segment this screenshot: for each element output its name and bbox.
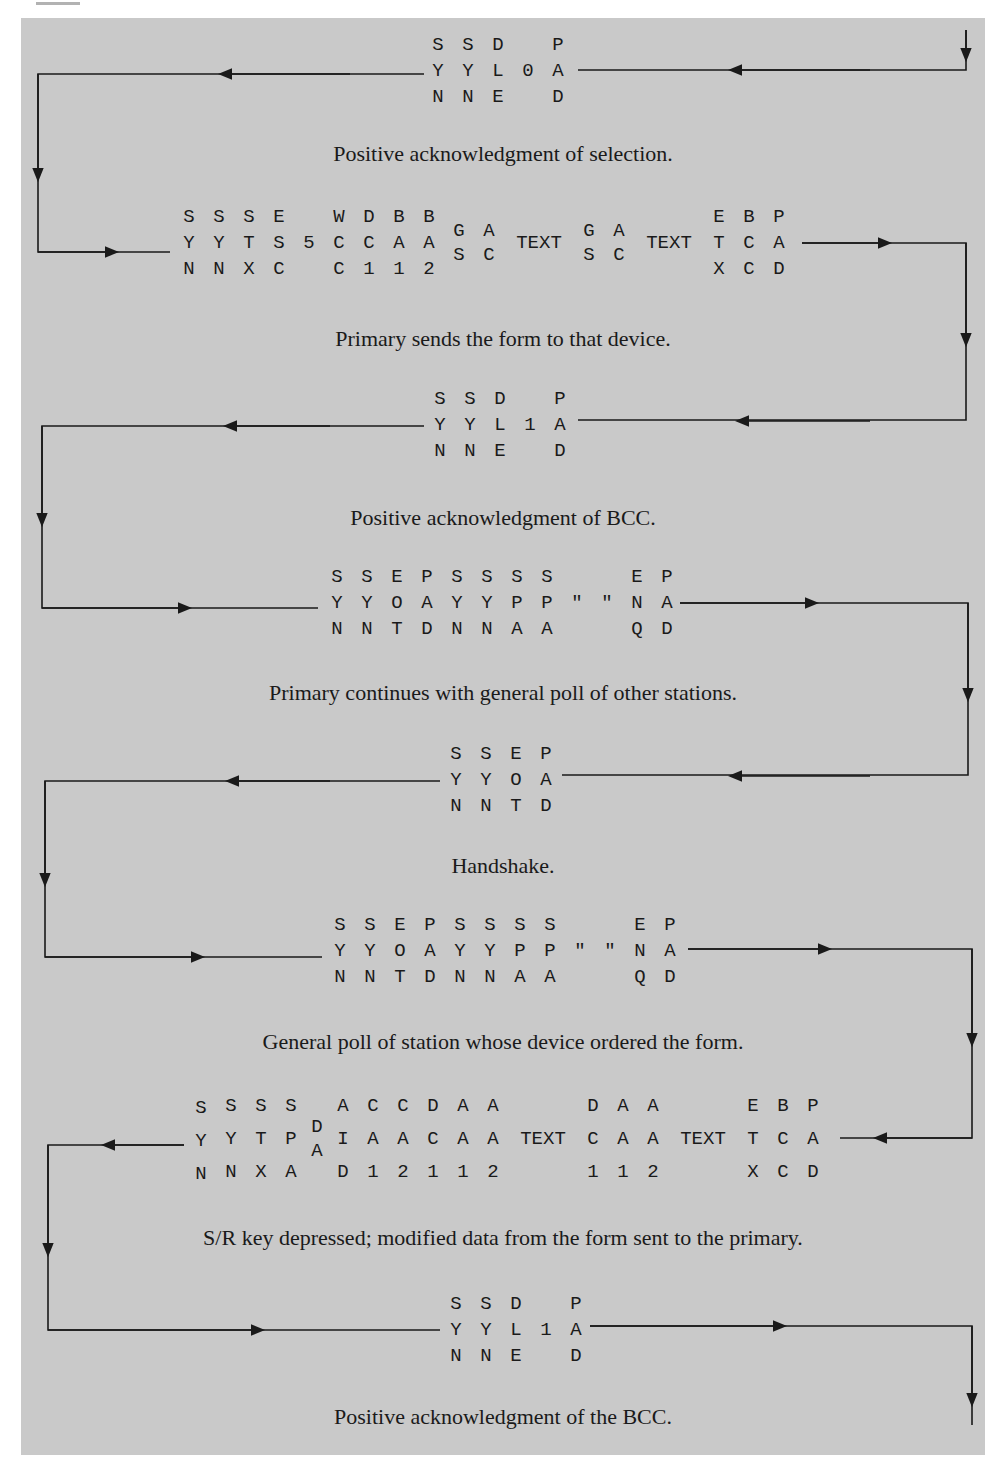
control-char: P — [664, 912, 675, 938]
control-char: S — [273, 230, 284, 256]
control-char: P — [285, 1126, 296, 1152]
char-column: SPA — [535, 912, 565, 990]
control-char: Y — [195, 1126, 206, 1152]
control-char: T — [255, 1126, 266, 1152]
frame-general-poll-others: SYN SYN EOT PAD SYN SYN SPA SPA " " ENQ … — [322, 564, 682, 642]
control-char: Y — [454, 938, 465, 964]
char-column: SYN — [441, 741, 471, 819]
char-column: SPA — [505, 912, 535, 990]
control-char: E — [747, 1093, 758, 1119]
char-column: SYN — [442, 564, 472, 642]
control-char: S — [225, 1093, 236, 1119]
char-column: PAD — [652, 564, 682, 642]
control-char: A — [664, 938, 675, 964]
char-column: AC — [474, 204, 504, 282]
char-column: SYN — [471, 1291, 501, 1369]
control-char: P — [552, 32, 563, 58]
control-char: A — [424, 938, 435, 964]
control-char: C — [367, 1093, 378, 1119]
control-char: S — [434, 386, 445, 412]
control-char: N — [225, 1159, 236, 1185]
control-char: Y — [451, 590, 462, 616]
control-char: S — [462, 32, 473, 58]
control-char: S — [480, 741, 491, 767]
control-char: A — [807, 1126, 818, 1152]
control-char: A — [661, 590, 672, 616]
control-char: S — [454, 912, 465, 938]
control-char: TEXT — [516, 230, 562, 256]
char-column: ESC — [264, 204, 294, 282]
control-char: N — [484, 964, 495, 990]
char-column: CA2 — [388, 1093, 418, 1185]
control-char: A — [423, 230, 434, 256]
control-char: N — [462, 84, 473, 110]
control-char: D — [427, 1093, 438, 1119]
control-char: A — [487, 1126, 498, 1152]
control-char: A — [541, 616, 552, 642]
char-column: GS — [574, 204, 604, 282]
control-char: C — [333, 256, 344, 282]
char-column: CA1 — [358, 1093, 388, 1185]
control-char: D — [552, 84, 563, 110]
control-char: A — [393, 230, 404, 256]
control-char: A — [421, 590, 432, 616]
control-char: C — [273, 256, 284, 282]
control-char: 1 — [587, 1159, 598, 1185]
control-char: A — [337, 1093, 348, 1119]
control-char: A — [511, 616, 522, 642]
control-char: S — [544, 912, 555, 938]
char-column: SPA — [502, 564, 532, 642]
control-char: T — [713, 230, 724, 256]
control-char: D — [540, 793, 551, 819]
control-char: C — [743, 256, 754, 282]
control-char: P — [424, 912, 435, 938]
char-column: BA1 — [384, 204, 414, 282]
char-column: AA1 — [608, 1093, 638, 1185]
char-column: EOT — [382, 564, 412, 642]
control-char: T — [510, 793, 521, 819]
char-column: SYN — [455, 386, 485, 464]
control-char: N — [450, 1343, 461, 1369]
char-column: 5 — [294, 204, 324, 282]
char-column: SYN — [425, 386, 455, 464]
control-char: S — [183, 204, 194, 230]
control-char: N — [213, 256, 224, 282]
control-char: 1 — [540, 1317, 551, 1343]
char-column: DC1 — [418, 1093, 448, 1185]
control-char: D — [510, 1291, 521, 1317]
control-char: E — [394, 912, 405, 938]
control-char: Q — [634, 964, 645, 990]
control-char: S — [450, 1291, 461, 1317]
caption-sr-key-data: S/R key depressed; modified data from th… — [21, 1225, 985, 1251]
control-char: Y — [484, 938, 495, 964]
frame-send-form: SYN SYN STX ESC 5 WCC DC1 BA1 BA2 GS AC … — [174, 204, 794, 282]
control-char: C — [427, 1126, 438, 1152]
control-char: S — [285, 1093, 296, 1119]
char-column: SYN — [475, 912, 505, 990]
control-char: P — [544, 938, 555, 964]
control-char: Y — [334, 938, 345, 964]
control-char: 2 — [423, 256, 434, 282]
control-char: T — [747, 1126, 758, 1152]
control-char: T — [243, 230, 254, 256]
char-column: TEXT — [668, 1093, 738, 1185]
char-column: SYN — [355, 912, 385, 990]
char-column: " — [565, 912, 595, 990]
control-char: D — [424, 964, 435, 990]
control-char: A — [544, 964, 555, 990]
control-char: " — [574, 938, 585, 964]
control-char: N — [634, 938, 645, 964]
caption-ack-bcc: Positive acknowledgment of BCC. — [21, 505, 985, 531]
char-column: SYN — [352, 564, 382, 642]
char-column: DLE — [501, 1291, 531, 1369]
char-column: " — [595, 912, 625, 990]
char-column: GS — [444, 204, 474, 282]
control-char: N — [464, 438, 475, 464]
char-column: ETX — [738, 1093, 768, 1185]
control-char: Y — [434, 412, 445, 438]
control-char: A — [570, 1317, 581, 1343]
char-column: STX — [234, 204, 264, 282]
char-column: EOT — [385, 912, 415, 990]
control-char: W — [333, 204, 344, 230]
control-char: 1 — [457, 1159, 468, 1185]
